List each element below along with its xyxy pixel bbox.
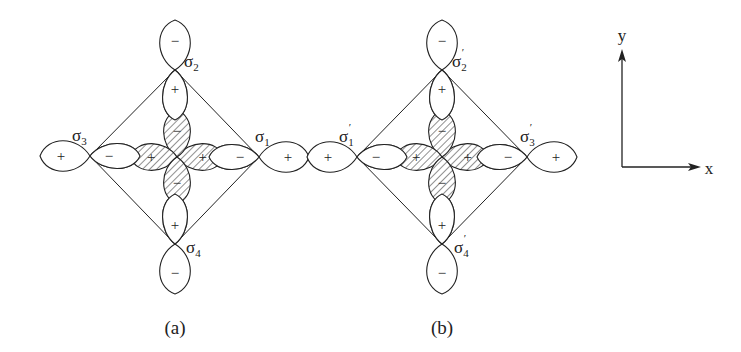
inner-sign-bottom: + [171,217,179,233]
diamond-edge [357,70,442,157]
diamond-edge [357,157,442,244]
outer-sign-left: + [324,149,332,165]
inner-sign-left: − [372,149,380,165]
label-sigma-right: σ1 [255,127,270,148]
center-sign-bottom: − [173,175,181,191]
inner-lobe-outline-right [209,145,259,170]
center-sign-top: − [173,123,181,139]
diagram-canvas: +−+−−++−−++−σ1σ2σ3σ4(a) +−+−−++−−++−σ3′σ… [0,0,741,352]
inner-lobe-outline-right [477,145,527,170]
outer-sign-bottom: − [171,265,179,281]
outer-sign-right: + [284,149,292,165]
outer-sign-right: + [552,149,560,165]
inner-sign-right: − [504,149,512,165]
outer-sign-left: + [57,148,65,164]
x-axis-label: x [705,159,714,178]
inner-sign-top: + [438,81,446,97]
panel-b: +−+−−++−−++−σ3′σ2′σ1′σ4′(b) [307,20,577,339]
center-sign-right: + [199,149,207,165]
diamond-edge [442,70,527,157]
inner-sign-bottom: + [438,217,446,233]
outer-sign-top: − [171,33,179,49]
outer-sign-bottom: − [438,265,446,281]
y-axis-label: y [618,26,627,45]
diamond-edge [90,70,175,156]
label-sigma-top: σ2 [184,52,199,73]
orbital-diagram: +−+−−++−−++−σ1σ2σ3σ4(a) +−+−−++−−++−σ3′σ… [0,0,741,352]
inner-lobe-outline-left [357,145,407,170]
center-sign-bottom: − [438,175,446,191]
center-sign-top: − [438,123,446,139]
inner-sign-left: − [105,148,113,164]
center-sign-left: + [147,149,155,165]
outer-sign-top: − [438,33,446,49]
diamond-edge [90,156,175,244]
center-sign-right: + [464,149,472,165]
label-sigma-right: σ3′ [520,121,535,148]
inner-sign-right: − [236,149,244,165]
caption-b: (b) [431,317,453,339]
label-sigma-left: σ1′ [339,121,354,148]
diamond-edge [442,157,527,244]
caption-a: (a) [164,317,185,339]
inner-sign-top: + [171,81,179,97]
center-sign-left: + [412,149,420,165]
coordinate-axes: x y [618,26,714,178]
panel-a: +−+−−++−−++−σ1σ2σ3σ4(a) [40,20,309,339]
label-sigma-left: σ3 [72,126,87,147]
inner-lobe-outline-left [90,144,140,169]
label-sigma-bottom: σ4′ [454,232,469,259]
label-sigma-bottom: σ4 [186,238,201,259]
